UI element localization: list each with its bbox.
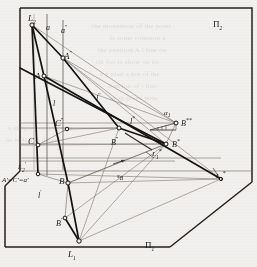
label-a: a bbox=[46, 24, 50, 32]
point-B bbox=[66, 181, 70, 185]
label-A-prime-equals-C-prime-equals-a-prime: A′=C′=a′ bbox=[2, 177, 29, 184]
label-s-B: sB bbox=[117, 173, 123, 182]
label-L2: L2 bbox=[28, 14, 36, 25]
label-A: A bbox=[35, 72, 41, 81]
label-l: l bbox=[53, 100, 55, 108]
ghost-text-line: thi foo is show on its bbox=[96, 58, 159, 66]
label-l-double-prime: l″ bbox=[96, 92, 101, 103]
label-B-prime: B′ bbox=[56, 217, 62, 228]
ghost-text-line: of th given poin bbox=[110, 94, 158, 102]
label-B-star-star: B** bbox=[181, 117, 192, 128]
point-L1 bbox=[77, 239, 81, 243]
point-Bstar bbox=[164, 142, 168, 146]
ghost-text-line: the position A I line on bbox=[98, 46, 167, 54]
label-plane-pi1: Π1 bbox=[145, 241, 154, 252]
label-C-double-prime: C″ bbox=[55, 117, 64, 128]
label-l-prime: l′ bbox=[38, 189, 42, 200]
ghost-text-line: the movement of the point bbox=[92, 22, 171, 30]
label-A-double-prime: A″ bbox=[64, 50, 72, 61]
ghost-text-line: as well a to determ bbox=[6, 136, 63, 144]
point-Bp bbox=[63, 216, 67, 220]
label-L2-prime: L2′ bbox=[18, 161, 26, 173]
ghost-text-line: it m ion of t line bbox=[108, 82, 157, 90]
label-plane-pi2: Π2 bbox=[213, 20, 222, 31]
label-L1: L1 bbox=[68, 250, 76, 261]
technical-drawing-figure: the movement of the point is some common… bbox=[0, 0, 257, 267]
point-A bbox=[42, 74, 46, 78]
label-C: C bbox=[28, 137, 34, 146]
ghost-text-line: a y plan a ion of the bbox=[100, 70, 160, 78]
label-B: B bbox=[59, 177, 65, 186]
point-Bstarstar bbox=[174, 121, 178, 125]
label-B-double-prime: B″ bbox=[111, 136, 118, 147]
label-L1-star-right: L1* bbox=[216, 170, 226, 182]
label-L1-star-middle: L1* bbox=[152, 148, 162, 160]
label-a-double-prime: a″ bbox=[61, 24, 68, 35]
label-l-star: l* bbox=[130, 115, 135, 126]
point-B2 bbox=[117, 126, 121, 130]
label-alpha1: α1 bbox=[164, 110, 170, 119]
label-B-star: B* bbox=[172, 138, 180, 149]
point-L2p bbox=[36, 172, 40, 176]
ghost-text-line: is some common a bbox=[110, 34, 166, 42]
